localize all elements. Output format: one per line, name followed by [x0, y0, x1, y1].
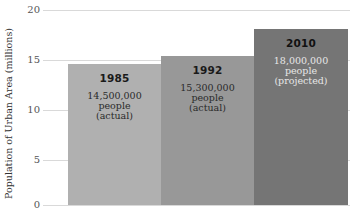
y-tick-10: 10: [26, 105, 40, 115]
y-tick-15: 15: [26, 55, 40, 65]
y-tick-0: 0: [26, 200, 40, 210]
bar-1992: 1992 15,300,000 people (actual): [161, 56, 254, 205]
bar-year-label: 2010: [254, 37, 348, 49]
gridline-20: [43, 10, 350, 11]
bar-2010: 2010 18,000,000 people (projected): [254, 29, 348, 205]
bar-1985: 1985 14,500,000 people (actual): [68, 64, 161, 205]
y-axis-title-text: Population of Urban Area (millions): [4, 27, 15, 198]
bar-status: (projected): [274, 75, 327, 86]
bar-value-label: 15,300,000 people (actual): [161, 83, 254, 113]
bar-status: (actual): [189, 102, 226, 113]
bar-value-label: 18,000,000 people (projected): [254, 56, 348, 86]
bar-chart: Population of Urban Area (millions) 20 1…: [0, 0, 360, 221]
y-tick-20: 20: [26, 5, 40, 15]
bar-year-label: 1985: [68, 72, 161, 84]
y-axis-title: Population of Urban Area (millions): [2, 18, 16, 208]
y-tick-5: 5: [26, 155, 40, 165]
gridline-0: [43, 205, 350, 206]
bar-value-label: 14,500,000 people (actual): [68, 91, 161, 121]
bar-status: (actual): [96, 110, 133, 121]
bar-year-label: 1992: [161, 64, 254, 76]
